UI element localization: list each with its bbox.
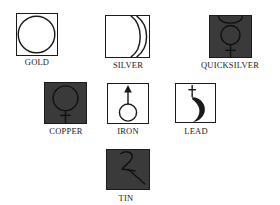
iron-label: IRON <box>117 126 139 136</box>
copper-label: COPPER <box>49 126 82 136</box>
silver-box <box>105 15 150 58</box>
tin-box <box>106 149 150 190</box>
sun-circle-icon <box>17 14 57 55</box>
mercury-icon <box>210 16 251 57</box>
silver-label: SILVER <box>113 60 143 70</box>
venus-icon <box>45 83 86 123</box>
lead-box <box>175 83 216 123</box>
crescent-moon-icon <box>106 16 149 57</box>
quicksilver-label: QUICKSILVER <box>201 60 259 70</box>
iron-box <box>107 83 149 124</box>
mars-icon <box>108 84 148 123</box>
saturn-icon <box>176 84 215 122</box>
gold-box <box>16 13 58 56</box>
jupiter-icon <box>107 150 149 189</box>
lead-label: LEAD <box>184 126 207 136</box>
gold-label: GOLD <box>25 57 49 67</box>
tin-label: TIN <box>119 193 134 203</box>
copper-box <box>44 82 87 124</box>
quicksilver-box <box>209 15 252 58</box>
